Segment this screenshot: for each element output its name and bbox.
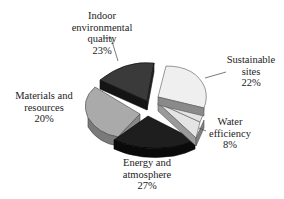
label-text: Indoor	[57, 10, 147, 22]
pie-chart: Indoor environmental quality 23% Sustain…	[0, 0, 284, 199]
label-materials-and-resources: Materials and resources 20%	[6, 90, 82, 125]
label-percent: 27%	[112, 180, 182, 192]
label-text: resources	[6, 102, 82, 114]
label-text: Sustainable	[218, 54, 284, 66]
label-text: atmosphere	[112, 169, 182, 181]
label-text: Materials and	[6, 90, 82, 102]
label-energy-and-atmosphere: Energy and atmosphere 27%	[112, 157, 182, 192]
label-percent: 20%	[6, 113, 82, 125]
label-percent: 22%	[218, 77, 284, 89]
label-indoor-environmental-quality: Indoor environmental quality 23%	[57, 10, 147, 56]
label-percent: 23%	[57, 45, 147, 57]
label-text: efficiency	[200, 128, 260, 140]
label-text: quality	[57, 33, 147, 45]
label-water-efficiency: Water efficiency 8%	[200, 116, 260, 151]
label-sustainable-sites: Sustainable sites 22%	[218, 54, 284, 89]
label-text: Water	[200, 116, 260, 128]
label-percent: 8%	[200, 139, 260, 151]
label-text: Energy and	[112, 157, 182, 169]
label-text: environmental	[57, 22, 147, 34]
label-text: sites	[218, 66, 284, 78]
